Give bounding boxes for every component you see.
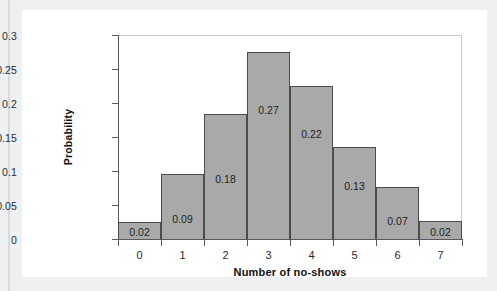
y-axis-tick-group: 0.2 [22,103,118,104]
bar-label-4: 0.22 [291,128,332,140]
y-axis-tick-group: 0.3 [22,35,118,36]
x-axis-tick [376,240,377,246]
bar-2[interactable]: 0.18 [204,114,247,239]
y-axis-tick-group: 0.25 [22,69,118,70]
bar-3[interactable]: 0.27 [247,52,290,239]
bar-6[interactable]: 0.07 [376,187,419,239]
x-axis-tick [290,240,291,246]
y-axis-tick-group: 0.1 [22,171,118,172]
x-axis-tick [419,240,420,246]
y-axis-tick-label: 0.3 [2,30,22,42]
x-axis-tick [118,240,119,246]
y-axis-tick-group: 0.05 [22,205,118,206]
y-axis-line [118,35,119,240]
x-axis-tick [247,240,248,246]
y-axis-tick-label: 0 [11,234,22,246]
x-axis-title: Number of no-shows [118,266,462,278]
y-axis-tick-label: 0.1 [2,166,22,178]
bar-5[interactable]: 0.13 [333,147,376,239]
x-axis-tick-label-2: 2 [204,249,247,261]
x-axis-tick [462,240,463,246]
figure-root: 0.3 0.25 0.2 0.15 0.1 0.05 0 0.02 [0,0,497,291]
y-axis-tick [112,103,118,104]
bar-label-2: 0.18 [205,173,246,185]
x-axis-tick [204,240,205,246]
y-axis-title: Probability [62,109,74,165]
y-axis-tick-group: 0 [22,239,118,240]
bar-1[interactable]: 0.09 [161,174,204,239]
x-axis-tick-label-5: 5 [333,249,376,261]
bar-label-0: 0.02 [119,226,160,238]
y-axis-tick [112,69,118,70]
bar-label-1: 0.09 [162,213,203,225]
bar-label-5: 0.13 [334,180,375,192]
x-axis-tick-label-3: 3 [247,249,290,261]
x-axis-tick [333,240,334,246]
figure-card: 0.3 0.25 0.2 0.15 0.1 0.05 0 0.02 [22,10,487,277]
y-axis-tick-label: 0.05 [0,200,22,212]
x-axis-tick-label-6: 6 [376,249,419,261]
bar-4[interactable]: 0.22 [290,86,333,239]
bar-7[interactable]: 0.02 [419,221,462,239]
bar-0[interactable]: 0.02 [118,222,161,239]
y-axis-tick [112,205,118,206]
y-axis-tick-label: 0.25 [0,64,22,76]
bar-label-6: 0.07 [377,215,418,227]
bar-label-7: 0.02 [420,226,461,238]
y-axis-tick [112,137,118,138]
x-axis-tick-label-1: 1 [161,249,204,261]
bar-label-3: 0.27 [248,104,289,116]
y-axis-tick-label: 0.2 [2,98,22,110]
x-axis-tick-label-4: 4 [290,249,333,261]
x-axis-tick-label-7: 7 [419,249,462,261]
y-axis-tick [112,35,118,36]
page-edge-rule [8,0,10,291]
y-axis-tick [112,171,118,172]
x-axis-tick-label-0: 0 [118,249,161,261]
x-axis-tick [161,240,162,246]
y-axis-tick-label: 0.15 [0,132,22,144]
